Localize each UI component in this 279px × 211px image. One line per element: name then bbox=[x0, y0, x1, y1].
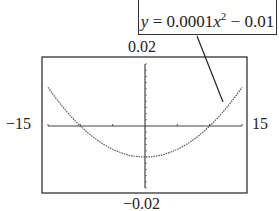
callout-leader-line bbox=[197, 36, 223, 102]
plot-area bbox=[0, 0, 279, 211]
